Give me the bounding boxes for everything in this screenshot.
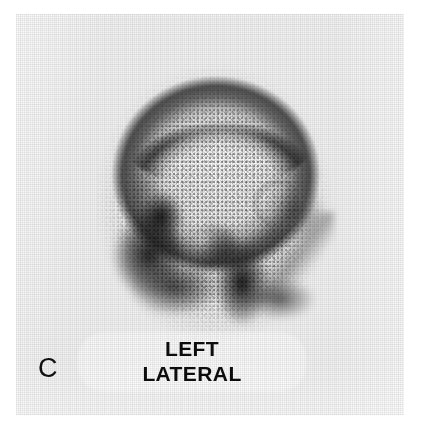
view-annotation: LEFT LATERAL bbox=[78, 336, 306, 386]
orbital-ring-marker bbox=[254, 180, 304, 228]
uptake-focus-mandible-body bbox=[244, 278, 316, 320]
scintigram-film: LEFT LATERAL C bbox=[16, 14, 404, 415]
uptake-focus-maxilla bbox=[128, 258, 220, 316]
midface-photopenic-area bbox=[174, 212, 230, 264]
figure-page: LEFT LATERAL C bbox=[0, 0, 424, 423]
skull-scintigram-image bbox=[94, 62, 334, 334]
view-annotation-line-1: LEFT bbox=[78, 336, 306, 361]
view-annotation-line-2: LATERAL bbox=[78, 361, 306, 386]
panel-label: C bbox=[38, 355, 58, 382]
